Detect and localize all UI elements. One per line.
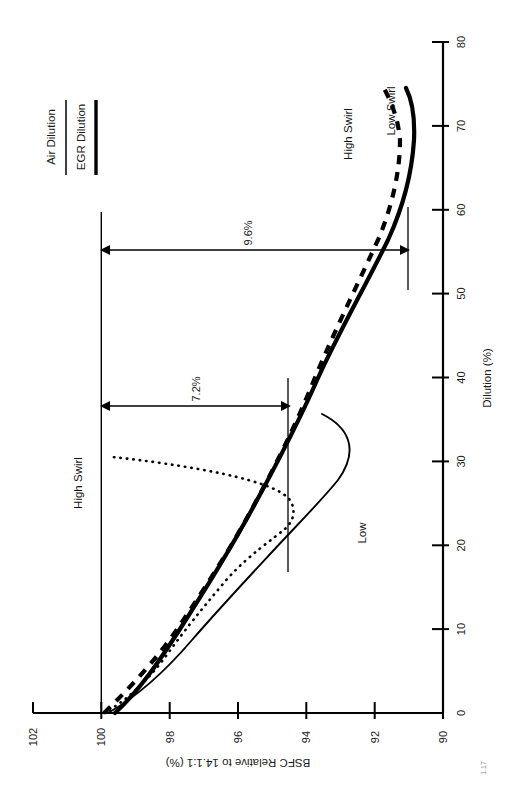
y-tick-label-94: 94	[300, 731, 312, 743]
annotation-label-9-6: 9.6%	[242, 220, 254, 245]
legend-label-air-dilution: Air Dilution	[45, 109, 57, 165]
x-tick-label-70: 70	[455, 120, 467, 132]
chart-page: 0 10 20 30 40 50 60 70 80 Dilution (%) 1…	[0, 0, 505, 788]
rotated-line-chart: 0 10 20 30 40 50 60 70 80 Dilution (%) 1…	[0, 0, 505, 788]
x-tick-label-80: 80	[455, 36, 467, 48]
x-tick-label-40: 40	[455, 371, 467, 383]
x-tick-label-0: 0	[455, 710, 467, 716]
curve-label-egr-low-swirl: Low Swirl	[385, 86, 397, 135]
page-corner-fragment: 1.17	[480, 761, 487, 775]
y-tick-label-102: 102	[27, 728, 39, 746]
y-axis-title: BSFC Relative to 14.1:1 (%)	[166, 757, 311, 769]
legend-label-egr-dilution: EGR Dilution	[75, 104, 87, 170]
curve-label-air-low-swirl: Low	[356, 522, 368, 544]
x-tick-label-50: 50	[455, 287, 467, 299]
y-tick-label-90: 90	[437, 731, 449, 743]
x-tick-label-60: 60	[455, 204, 467, 216]
y-tick-label-92: 92	[369, 731, 381, 743]
curve-label-air-high-swirl: High Swirl	[72, 457, 84, 509]
x-tick-label-30: 30	[455, 455, 467, 467]
y-tick-label-100: 100	[95, 728, 107, 746]
y-tick-label-98: 98	[164, 731, 176, 743]
x-axis-title: Dilution (%)	[481, 348, 493, 408]
y-tick-label-96: 96	[232, 731, 244, 743]
curve-label-egr-high-swirl: High Swirl	[342, 108, 354, 160]
annotation-label-7-2: 7.2%	[190, 376, 202, 401]
x-tick-label-20: 20	[455, 539, 467, 551]
x-tick-label-10: 10	[455, 623, 467, 635]
